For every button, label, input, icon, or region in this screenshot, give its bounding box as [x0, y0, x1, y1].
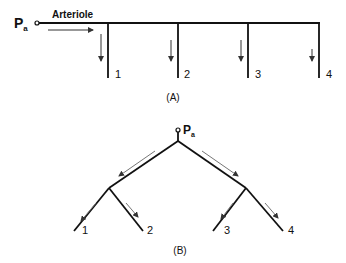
flow-arrow-icon	[265, 203, 278, 218]
leaf-2-line	[109, 188, 143, 231]
source-node-a	[35, 21, 39, 25]
leaf-label-3: 3	[224, 224, 230, 236]
left-trunk-line	[109, 141, 178, 188]
branch-label-3: 3	[255, 68, 261, 80]
leaf-label-4: 4	[288, 224, 294, 236]
flow-arrow-icon	[202, 151, 238, 176]
leaf-label-2: 2	[147, 224, 153, 236]
flow-arrow-icon	[81, 203, 96, 221]
branch-label-1: 1	[115, 68, 121, 80]
caption-b: (B)	[173, 245, 186, 256]
diagram-canvas: Pa Arteriole 1 2 3 4 (A) Pa	[0, 0, 346, 263]
pa-label-b: Pa	[183, 123, 195, 138]
pa-label-a: Pa	[14, 15, 28, 33]
flow-arrow-icon	[221, 203, 233, 219]
flow-arrow-icon	[126, 203, 138, 217]
arteriole-label: Arteriole	[52, 9, 94, 20]
flow-arrow-icon	[119, 151, 155, 176]
leaf-4-line	[246, 188, 283, 231]
source-node-b	[176, 128, 180, 132]
leaf-label-1: 1	[82, 224, 88, 236]
panel-a: Pa Arteriole 1 2 3 4 (A)	[14, 9, 332, 103]
leaf-1-line	[74, 188, 109, 231]
caption-a: (A)	[166, 92, 179, 103]
branch-label-4: 4	[326, 68, 332, 80]
right-trunk-line	[178, 141, 246, 188]
panel-b: Pa 1 2 3 4 (B)	[74, 123, 294, 256]
branch-label-2: 2	[184, 68, 190, 80]
